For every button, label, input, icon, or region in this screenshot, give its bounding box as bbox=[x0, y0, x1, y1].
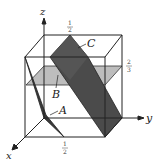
svg-text:2: 2 bbox=[127, 58, 131, 65]
svg-text:3: 3 bbox=[127, 66, 131, 73]
cube-diagram: z y x 1 2 2 3 1 2 C B A bbox=[0, 0, 161, 168]
plane-c-label: C bbox=[87, 37, 96, 50]
tick-right: 2 3 bbox=[126, 58, 132, 73]
x-axis-label: x bbox=[6, 150, 12, 161]
svg-text:1: 1 bbox=[68, 19, 72, 26]
plane-a-label: A bbox=[58, 104, 67, 117]
y-axis-label: y bbox=[145, 112, 153, 125]
plane-b-label: B bbox=[51, 88, 60, 101]
svg-text:1: 1 bbox=[63, 140, 67, 147]
tick-top: 1 2 bbox=[67, 19, 73, 33]
svg-text:2: 2 bbox=[68, 26, 72, 33]
tick-bottom: 1 2 bbox=[62, 140, 68, 155]
svg-text:2: 2 bbox=[63, 148, 67, 155]
z-axis-label: z bbox=[39, 6, 46, 17]
